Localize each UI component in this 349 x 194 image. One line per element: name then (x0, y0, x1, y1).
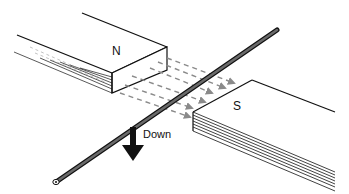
north-pole-label: N (112, 44, 121, 58)
diagram-canvas: N S Down (0, 0, 349, 194)
south-magnet: S (193, 80, 349, 193)
motion-direction-label: Down (143, 128, 171, 140)
south-pole-label: S (233, 99, 241, 113)
